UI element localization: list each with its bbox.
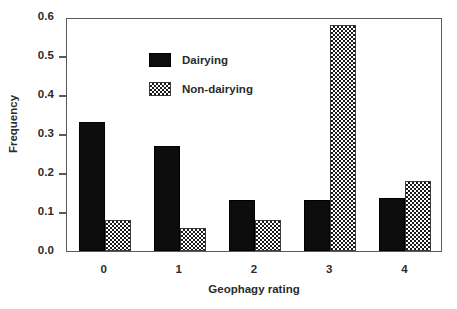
bar-dairying-4 (379, 198, 405, 251)
y-axis-tick-label: 0.1 (38, 205, 54, 217)
bar-dairying-0 (79, 122, 105, 251)
y-axis-tick-mark (59, 173, 66, 175)
bar-non-dairying-1 (180, 228, 206, 251)
x-axis-tick-label: 4 (384, 263, 424, 275)
y-axis-tick-label: 0.4 (38, 88, 54, 100)
y-axis-tick-label: 0.2 (38, 166, 54, 178)
legend-swatch-icon (149, 53, 171, 67)
y-axis-tick-label: 0.3 (38, 127, 54, 139)
y-axis-tick-mark (59, 56, 66, 58)
y-axis-title: Frequency (7, 64, 19, 184)
x-axis-title: Geophagy rating (66, 283, 442, 295)
x-axis-tick-label: 1 (159, 263, 199, 275)
bar-dairying-1 (154, 146, 180, 251)
bar-dairying-3 (304, 200, 330, 251)
x-axis-tick-label: 3 (309, 263, 349, 275)
y-axis-tick-label: 0.0 (38, 244, 54, 256)
bar-non-dairying-4 (405, 181, 431, 251)
legend-item: Non-dairying (149, 78, 299, 100)
legend-item-label: Non-dairying (182, 83, 253, 95)
bar-non-dairying-2 (255, 220, 281, 251)
bar-chart: 0.00.10.20.30.40.50.6 Frequency Dairying… (0, 0, 457, 309)
bar-non-dairying-3 (330, 25, 356, 251)
bar-dairying-2 (229, 200, 255, 251)
y-axis-tick-mark (59, 95, 66, 97)
x-axis-tick-label: 0 (84, 263, 124, 275)
plot-area: DairyingNon-dairying (66, 18, 442, 252)
legend-item-label: Dairying (182, 54, 228, 66)
legend: DairyingNon-dairying (149, 49, 299, 107)
bar-non-dairying-0 (105, 220, 131, 251)
legend-swatch-icon (149, 82, 171, 96)
legend-item: Dairying (149, 49, 299, 71)
y-axis-tick-mark (59, 212, 66, 214)
x-axis-tick-label: 2 (234, 263, 274, 275)
y-axis-tick-mark (59, 134, 66, 136)
y-axis-tick-label: 0.5 (38, 49, 54, 61)
y-axis-tick-label: 0.6 (38, 10, 54, 22)
